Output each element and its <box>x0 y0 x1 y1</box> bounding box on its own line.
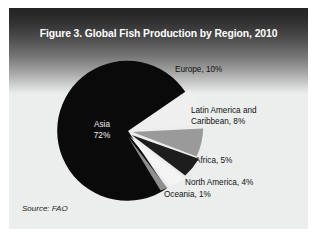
pie-label-europe: Europe, 10% <box>175 65 222 76</box>
pie-label-latin-america-line2: Caribbean, 8% <box>191 117 257 128</box>
pie-label-latin-america: Latin America and Caribbean, 8% <box>191 106 257 127</box>
pie-label-asia: Asia 72% <box>76 120 128 141</box>
figure-panel: Figure 3. Global Fish Production by Regi… <box>9 8 308 229</box>
figure-screenshot: Figure 3. Global Fish Production by Regi… <box>0 0 317 237</box>
pie-label-latin-america-line1: Latin America and <box>191 106 257 117</box>
source-note: Source: FAO <box>22 204 68 213</box>
pie-chart-svg <box>9 8 308 229</box>
pie-label-asia-name: Asia <box>76 120 128 131</box>
pie-chart: Asia 72% Europe, 10% Latin America and C… <box>9 8 308 229</box>
pie-label-africa: Africa, 5% <box>195 156 232 167</box>
pie-label-north-america: North America, 4% <box>185 178 253 189</box>
pie-label-oceania: Oceania, 1% <box>164 190 211 201</box>
pie-label-asia-value: 72% <box>76 131 128 142</box>
